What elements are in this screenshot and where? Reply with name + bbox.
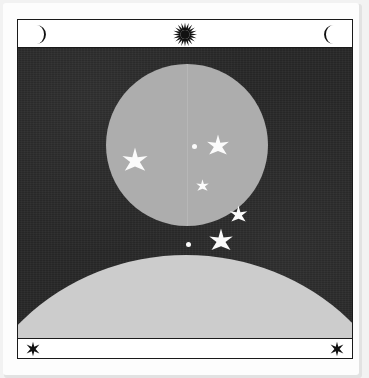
- star-crux-delta-dot: [186, 242, 191, 247]
- planet-horizon-arc: [18, 255, 352, 338]
- six-point-star-right-icon: [329, 341, 345, 357]
- crescent-moon-right-icon: [323, 24, 344, 45]
- crescent-moon-left-icon: [26, 24, 47, 45]
- moon-seam-line: [187, 64, 188, 226]
- top-band: [18, 20, 352, 48]
- star-crux-epsilon-dot: [192, 144, 197, 149]
- star-crux-alpha: [207, 228, 235, 256]
- star-crux-epsilon: [195, 179, 210, 194]
- sunburst-icon: [172, 22, 198, 47]
- night-sky-scene: [18, 48, 352, 338]
- star-commonwealth: [120, 147, 150, 177]
- engraved-frame: [17, 19, 353, 359]
- star-crux-gamma: [205, 134, 231, 160]
- six-point-star-left-icon: [25, 341, 41, 357]
- star-crux-beta: [228, 205, 249, 226]
- poster-root: [0, 0, 369, 378]
- bottom-band: [18, 338, 352, 358]
